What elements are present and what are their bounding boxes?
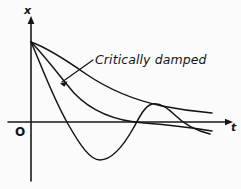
x-axis-label: t bbox=[231, 121, 237, 134]
origin-label: O bbox=[15, 125, 25, 139]
y-axis-arrowhead-icon bbox=[28, 16, 35, 24]
leader-line bbox=[62, 60, 93, 82]
figure-canvas: x t O Critically damped bbox=[0, 0, 241, 189]
critically-damped-label: Critically damped bbox=[95, 52, 207, 67]
y-axis-label: x bbox=[23, 4, 32, 17]
critically-damped-leader bbox=[60, 60, 93, 87]
y-axis bbox=[28, 16, 35, 181]
damped-oscillation-figure: x t O Critically damped bbox=[0, 0, 241, 189]
